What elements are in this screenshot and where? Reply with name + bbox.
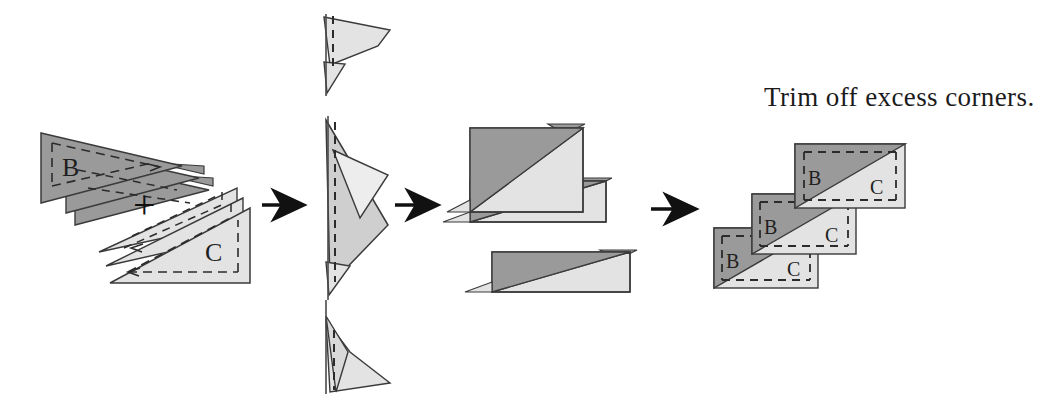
edge-top-sliver (324, 62, 345, 93)
opened-unit-1 (447, 124, 585, 212)
edge-cluster-top (324, 14, 390, 96)
unit1-dogear-left (447, 200, 470, 212)
trimmed2-label-B: B (764, 216, 777, 238)
diagram-canvas: B + (0, 0, 1054, 407)
caption-trim-off-excess-corners: Trim off excess corners. (764, 82, 1035, 112)
edge-top-light-quad (324, 17, 390, 65)
plus-operator: + (133, 182, 156, 227)
trimmed3-label-C: C (787, 258, 800, 280)
panel-trimmed-units: B C B C (714, 144, 905, 288)
edge-mid-sliver (326, 262, 350, 295)
edge-cluster-middle (326, 116, 388, 300)
unit3-dogear-left (465, 282, 492, 292)
trimmed3-label-B: B (726, 250, 739, 272)
quilting-diagram: B + (0, 0, 1054, 407)
label-light-C: C (205, 238, 222, 267)
edge-cluster-bottom (326, 300, 390, 394)
unit2-dogear-left (443, 212, 470, 222)
label-dark-B: B (62, 153, 79, 182)
trimmed1-label-C: C (870, 176, 883, 198)
trimmed2-label-C: C (825, 224, 838, 246)
panel-opened-units (443, 124, 637, 292)
trimmed-unit-1: B C (795, 144, 905, 208)
panel-stacked-inputs: B + (41, 133, 250, 283)
trimmed1-label-B: B (808, 167, 821, 189)
opened-unit-3 (465, 250, 637, 292)
panel-edge-on-stack (324, 14, 390, 394)
